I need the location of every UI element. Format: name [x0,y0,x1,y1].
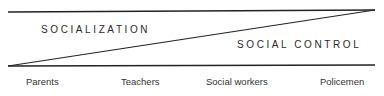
diagonal-divider [8,10,375,66]
socialization-label: SOCIALIZATION [41,24,150,35]
label-parents: Parents [26,76,59,87]
bottom-line [8,65,375,66]
label-teachers: Teachers [121,76,160,87]
social-control-label: SOCIAL CONTROL [237,39,361,50]
top-line [8,10,375,12]
label-policemen: Policemen [320,76,364,87]
label-social-workers: Social workers [206,76,268,87]
